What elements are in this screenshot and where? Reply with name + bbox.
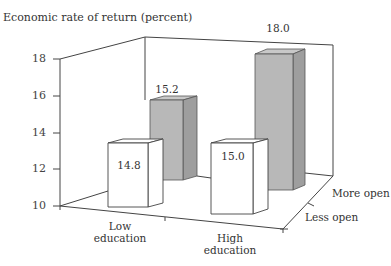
x-category-high-education: High education — [200, 232, 260, 256]
y-tick-12: 12 — [24, 162, 46, 175]
depth-label-less-open: Less open — [305, 211, 358, 223]
category-line: High — [200, 232, 260, 244]
y-tick-14: 14 — [24, 126, 46, 139]
value-label-high-less-open: 15.0 — [213, 150, 253, 162]
value-label-low-more-open: 15.2 — [150, 83, 184, 95]
y-tick-10: 10 — [24, 199, 46, 212]
value-label-low-less-open: 14.8 — [110, 159, 148, 171]
chart-plot — [0, 0, 391, 266]
x-category-low-education: Low education — [90, 220, 150, 244]
y-tick-18: 18 — [24, 52, 46, 65]
y-tick-16: 16 — [24, 89, 46, 102]
bar-low-less-open — [108, 139, 163, 207]
category-line: education — [90, 232, 150, 244]
category-line: Low — [90, 220, 150, 232]
value-label-high-more-open: 18.0 — [258, 22, 298, 34]
depth-label-more-open: More open — [332, 187, 390, 199]
category-line: education — [200, 244, 260, 256]
